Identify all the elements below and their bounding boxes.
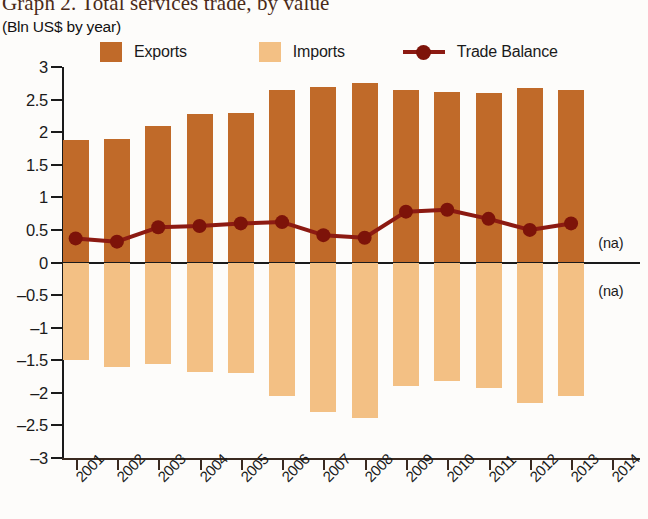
imports-swatch-icon [259,42,281,62]
y-tick-label: 2.5 [26,91,48,108]
y-tick-label: –2.5 [17,417,48,434]
title-block: Graph 2. Total services trade, by value … [2,0,502,36]
trade-balance-marker [151,220,165,234]
y-tick-label: 2 [39,124,48,141]
y-tick-mark [51,424,62,426]
y-tick-mark [51,392,62,394]
chart-subtitle: (Bln US$ by year) [2,17,502,36]
y-tick-label: –2 [30,385,48,402]
y-tick-mark [51,262,62,264]
exports-swatch-icon [100,42,122,62]
legend-item-trade-balance: Trade Balance [403,42,558,62]
legend-label-exports: Exports [134,43,187,61]
legend-label-imports: Imports [293,43,345,61]
y-tick-label: –3 [30,450,48,467]
trade-balance-line-icon [403,42,445,62]
trade-balance-marker [69,231,83,245]
trade-balance-marker [275,215,289,229]
y-tick-label: 1.5 [26,157,48,174]
y-tick-mark [51,294,62,296]
trade-balance-marker [482,212,496,226]
trade-balance-series [62,67,640,458]
na-label: (na) [598,283,623,299]
y-tick-mark [51,359,62,361]
legend-item-exports: Exports [100,42,187,62]
chart-legend: Exports Imports Trade Balance [100,41,558,63]
na-label: (na) [598,235,623,251]
y-tick-label: –1.5 [17,352,48,369]
y-tick-mark [51,457,62,459]
y-tick-label: 3 [39,59,48,76]
y-tick-label: 0 [39,254,48,271]
plot-area: 32.521.510.50–0.5–1–1.5–2–2.5–3 (na)(na) [62,67,640,458]
y-tick-mark [51,229,62,231]
trade-balance-marker [193,219,207,233]
y-tick-mark [51,131,62,133]
legend-item-imports: Imports [259,42,345,62]
trade-balance-marker [399,205,413,219]
trade-balance-marker [358,231,372,245]
trade-balance-marker [440,203,454,217]
y-tick-mark [51,196,62,198]
trade-balance-marker [564,216,578,230]
y-tick-label: –0.5 [17,287,48,304]
trade-balance-marker [316,228,330,242]
legend-label-trade-balance: Trade Balance [457,43,558,61]
y-tick-mark [51,327,62,329]
y-tick-mark [51,99,62,101]
trade-balance-marker [234,216,248,230]
page-title: Graph 2. Total services trade, by value [2,0,502,14]
y-tick-label: –1 [30,319,48,336]
y-tick-mark [51,66,62,68]
trade-balance-marker [110,235,124,249]
y-tick-mark [51,164,62,166]
y-tick-label: 0.5 [26,222,48,239]
y-tick-label: 1 [39,189,48,206]
trade-balance-marker [523,223,537,237]
